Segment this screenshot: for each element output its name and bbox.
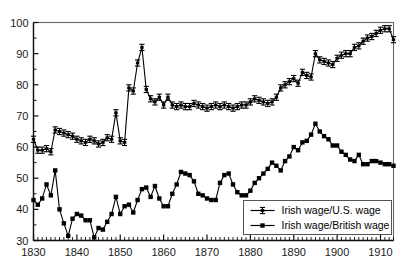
data-point-marker [79,213,83,217]
y-tick-label: 100 [10,17,28,29]
data-point-marker [339,150,343,154]
data-point-marker [361,162,365,166]
data-point-marker [31,198,35,202]
data-point-marker [92,235,96,239]
data-point-marker [370,159,374,163]
data-point-marker [305,139,309,143]
data-point-marker [374,159,378,163]
data-point-marker [213,198,217,202]
data-point-marker [309,132,313,136]
data-point-marker [331,143,335,147]
x-tick-label: 1840 [65,246,89,258]
data-point-marker [88,218,92,222]
data-point-marker [153,184,157,188]
data-point-marker [352,159,356,163]
y-tick-label: 50 [16,172,28,184]
data-point-marker [235,190,239,194]
data-point-marker [62,221,66,225]
y-tick-label: 60 [16,141,28,153]
data-point-marker [322,134,326,138]
data-point-marker [127,202,131,206]
data-point-marker [274,164,278,168]
legend-label: Irish wage/British wage [282,219,390,231]
data-point-marker [144,185,148,189]
y-tick-label: 40 [16,203,28,215]
data-point-marker [53,168,57,172]
x-tick-label: 1830 [21,246,45,258]
x-tick-label: 1850 [108,246,132,258]
data-point-marker [292,145,296,149]
data-point-marker [226,171,230,175]
data-point-marker [218,181,222,185]
data-point-marker [383,162,387,166]
data-point-marker [231,182,235,186]
data-point-marker [313,122,317,126]
x-tick-label: 1870 [195,246,219,258]
data-point-marker [253,181,257,185]
data-point-marker [335,143,339,147]
data-point-marker [183,171,187,175]
data-point-marker [378,160,382,164]
x-axis-tick-labels: 183018401850186018701880189019001910 [21,246,392,258]
data-point-marker [391,164,395,168]
chart-figure: 30405060708090100 1830184018501860187018… [0,0,410,272]
data-point-marker [348,157,352,161]
data-point-marker [44,182,48,186]
data-point-marker [96,226,100,230]
data-point-marker [118,212,122,216]
data-point-marker [261,171,265,175]
legend-label: Irish wage/U.S. wage [282,204,381,216]
data-point-marker [161,204,165,208]
data-point-marker [300,140,304,144]
x-tick-label: 1860 [151,246,175,258]
data-point-marker [66,234,70,238]
data-point-marker [357,153,361,157]
data-point-marker [105,220,109,224]
data-point-marker [166,204,170,208]
y-tick-label: 70 [16,110,28,122]
data-point-marker [287,154,291,158]
data-point-marker [170,192,174,196]
data-point-marker [157,196,161,200]
data-point-marker [40,196,44,200]
y-tick-label: 90 [16,48,28,60]
data-point-marker [174,182,178,186]
x-tick-label: 1890 [281,246,305,258]
data-point-marker [49,193,53,197]
data-point-marker [148,195,152,199]
data-point-marker [244,193,248,197]
data-point-marker [135,198,139,202]
x-tick-label: 1910 [368,246,392,258]
data-point-marker [131,210,135,214]
data-point-marker [266,167,270,171]
data-point-marker [239,193,243,197]
data-point-marker [114,195,118,199]
data-point-marker [279,168,283,172]
data-point-marker [222,173,226,177]
data-point-marker [109,212,113,216]
data-point-marker [179,170,183,174]
x-tick-label: 1880 [238,246,262,258]
data-point-marker [187,173,191,177]
data-point-marker [122,204,126,208]
data-point-marker [296,148,300,152]
chart-legend: Irish wage/U.S. wageIrish wage/British w… [244,201,392,235]
data-point-marker [365,162,369,166]
data-point-marker [57,207,61,211]
data-point-marker [75,212,79,216]
data-point-marker [140,187,144,191]
wage-ratio-line-chart: 30405060708090100 1830184018501860187018… [0,0,410,272]
data-point-marker [387,162,391,166]
data-point-marker [196,192,200,196]
data-point-marker [270,160,274,164]
data-point-marker [326,137,330,141]
data-point-marker [283,159,287,163]
y-tick-label: 80 [16,79,28,91]
data-point-marker [70,217,74,221]
data-point-marker [257,176,261,180]
data-point-marker [101,227,105,231]
data-point-marker [83,218,87,222]
data-point-marker [192,179,196,183]
data-point-marker [248,188,252,192]
data-point-marker [205,196,209,200]
